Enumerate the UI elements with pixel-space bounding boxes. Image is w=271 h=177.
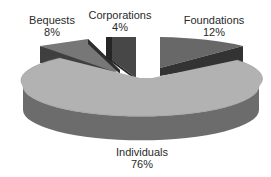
label-individuals-value: 76% bbox=[116, 158, 168, 170]
label-foundations-value: 12% bbox=[184, 26, 245, 38]
label-foundations: Foundations 12% bbox=[184, 14, 245, 38]
label-bequests-value: 8% bbox=[29, 26, 75, 38]
label-corporations-value: 4% bbox=[89, 21, 152, 33]
label-corporations-name: Corporations bbox=[89, 9, 152, 21]
slice-individuals bbox=[21, 58, 263, 140]
label-corporations: Corporations 4% bbox=[89, 9, 152, 33]
label-individuals-name: Individuals bbox=[116, 146, 168, 158]
label-bequests: Bequests 8% bbox=[29, 14, 75, 38]
label-bequests-name: Bequests bbox=[29, 14, 75, 26]
label-foundations-name: Foundations bbox=[184, 14, 245, 26]
label-individuals: Individuals 76% bbox=[116, 146, 168, 170]
